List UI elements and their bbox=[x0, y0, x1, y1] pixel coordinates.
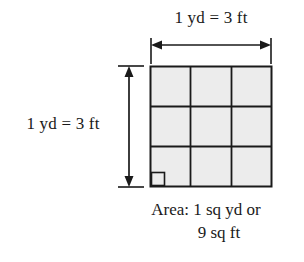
left-dimension-group bbox=[118, 66, 144, 187]
left-arrow-up-icon bbox=[125, 66, 134, 77]
left-dimension-label: 1 yd = 3 ft bbox=[8, 114, 118, 134]
top-dimension-group bbox=[151, 38, 271, 64]
square-yard-outline bbox=[151, 67, 272, 187]
area-caption-line-1: Area: 1 sq yd or bbox=[118, 198, 294, 221]
left-arrow-down-icon bbox=[125, 176, 134, 187]
top-arrow-left-icon bbox=[151, 41, 162, 50]
top-arrow-right-icon bbox=[260, 41, 271, 50]
area-caption: Area: 1 sq yd or 9 sq ft bbox=[118, 198, 294, 244]
top-dimension-label: 1 yd = 3 ft bbox=[150, 8, 272, 28]
area-caption-line-2: 9 sq ft bbox=[118, 221, 294, 244]
figure-container: 1 yd = 3 ft 1 yd = 3 ft Area: 1 sq yd or… bbox=[0, 0, 304, 262]
